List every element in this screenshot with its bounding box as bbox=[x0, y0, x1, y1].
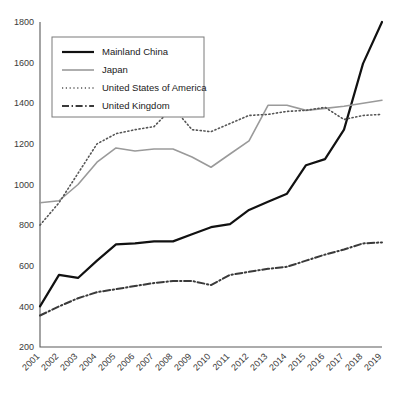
x-tick-label: 2002 bbox=[39, 351, 60, 372]
x-tick-label: 2017 bbox=[324, 351, 345, 372]
legend-label[interactable]: United Kingdom bbox=[102, 100, 170, 111]
x-tick-label: 2016 bbox=[305, 351, 326, 372]
legend-label[interactable]: Japan bbox=[102, 64, 128, 75]
chart-canvas: 20040060080010001200140016001800 2001200… bbox=[0, 0, 394, 408]
y-tick-label: 600 bbox=[19, 261, 34, 271]
x-tick-label: 2013 bbox=[248, 351, 269, 372]
chart-legend[interactable]: Mainland ChinaJapanUnited States of Amer… bbox=[52, 37, 207, 117]
x-tick-label: 2004 bbox=[77, 351, 98, 372]
x-axis-tick-labels: 2001200220032004200520062007200820092010… bbox=[20, 351, 383, 372]
y-tick-label: 1800 bbox=[14, 17, 34, 27]
series-line-united-states-of-america bbox=[40, 107, 382, 225]
y-tick-label: 1200 bbox=[14, 139, 34, 149]
legend-label[interactable]: United States of America bbox=[102, 82, 207, 93]
x-tick-label: 2006 bbox=[115, 351, 136, 372]
legend-label[interactable]: Mainland China bbox=[102, 46, 169, 57]
x-tick-label: 2010 bbox=[191, 351, 212, 372]
x-tick-label: 2007 bbox=[134, 351, 155, 372]
y-tick-label: 200 bbox=[19, 342, 34, 352]
x-tick-label: 2005 bbox=[96, 351, 117, 372]
line-chart: 20040060080010001200140016001800 2001200… bbox=[0, 0, 394, 408]
y-tick-label: 400 bbox=[19, 302, 34, 312]
y-axis-tick-labels: 20040060080010001200140016001800 bbox=[14, 17, 34, 352]
x-tick-label: 2019 bbox=[362, 351, 383, 372]
x-tick-label: 2003 bbox=[58, 351, 79, 372]
y-tick-label: 1400 bbox=[14, 98, 34, 108]
series-line-united-kingdom bbox=[40, 242, 382, 315]
x-tick-label: 2009 bbox=[172, 351, 193, 372]
x-tick-label: 2008 bbox=[153, 351, 174, 372]
x-tick-label: 2014 bbox=[267, 351, 288, 372]
x-tick-label: 2012 bbox=[229, 351, 250, 372]
x-tick-label: 2001 bbox=[20, 351, 41, 372]
x-tick-label: 2015 bbox=[286, 351, 307, 372]
x-tick-label: 2018 bbox=[343, 351, 364, 372]
y-tick-label: 1600 bbox=[14, 58, 34, 68]
y-tick-label: 800 bbox=[19, 220, 34, 230]
x-tick-label: 2011 bbox=[211, 351, 232, 372]
y-tick-label: 1000 bbox=[14, 180, 34, 190]
